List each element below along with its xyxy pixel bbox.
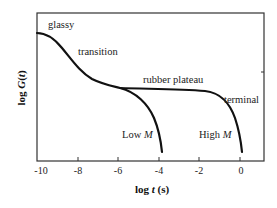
curve-low-m — [120, 88, 162, 152]
annotation-terminal: terminal — [224, 94, 259, 105]
x-axis-title: log t (s) — [135, 183, 170, 196]
chart: -10 -8 -6 -4 -2 0 log t (s) log G(t) gla… — [0, 0, 277, 208]
x-tick-label: -6 — [114, 165, 122, 176]
annotation-rubber-plateau: rubber plateau — [143, 74, 204, 85]
label-low-m: Low M — [122, 129, 154, 140]
annotation-glassy: glassy — [48, 19, 75, 30]
x-tick-label: 0 — [239, 165, 244, 176]
curve-shared-segment — [37, 33, 120, 88]
label-high-m: High M — [199, 129, 233, 140]
x-tick-label: -10 — [34, 165, 47, 176]
x-tick-label: -2 — [195, 165, 203, 176]
x-tick-label: -8 — [74, 165, 82, 176]
annotation-transition: transition — [78, 46, 118, 57]
y-axis-title: log G(t) — [15, 70, 28, 106]
x-tick-label: -4 — [155, 165, 163, 176]
x-axis-tick-labels: -10 -8 -6 -4 -2 0 — [34, 165, 243, 176]
